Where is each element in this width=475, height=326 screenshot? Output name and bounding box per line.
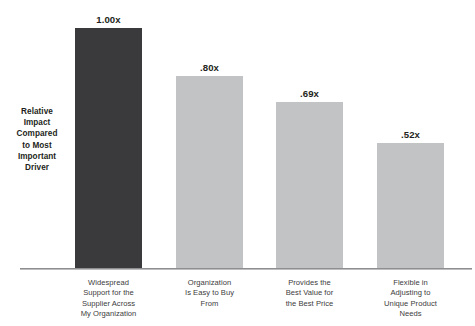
bar-category-line: Needs xyxy=(351,309,470,319)
bar[interactable] xyxy=(377,143,444,268)
x-axis-line-shadow xyxy=(20,269,472,270)
bar-category-line: Unique Product xyxy=(351,299,470,309)
bar[interactable] xyxy=(75,28,142,268)
bar-group: .52x Flexible in Adjusting to Unique Pro… xyxy=(377,0,444,268)
plot-area: 1.00x Widespread Support for the Supplie… xyxy=(0,0,475,326)
bar-group: .80x Organization Is Easy to Buy From xyxy=(176,0,243,268)
bar-category-label: Flexible in Adjusting to Unique Product … xyxy=(351,278,470,320)
bar-value-label: .69x xyxy=(254,88,365,99)
chart-canvas: Relative Impact Compared to Most Importa… xyxy=(0,0,475,326)
bar-category-line: Adjusting to xyxy=(351,288,470,298)
bar-group: 1.00x Widespread Support for the Supplie… xyxy=(75,0,142,268)
bar-category-line: Flexible in xyxy=(351,278,470,288)
bar-group: .69x Provides the Best Value for the Bes… xyxy=(276,0,343,268)
bar-category-line: My Organization xyxy=(49,309,168,319)
bar-value-label: 1.00x xyxy=(53,14,164,25)
bar-value-label: .80x xyxy=(154,62,265,73)
bar[interactable] xyxy=(176,76,243,268)
bar-value-label: .52x xyxy=(355,129,466,140)
bar[interactable] xyxy=(276,102,343,268)
